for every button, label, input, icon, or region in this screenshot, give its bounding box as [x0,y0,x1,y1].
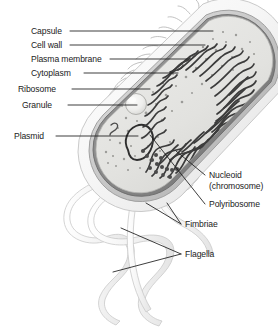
bacterial-cell-diagram: Capsule Cell wall Plasma membrane Cytopl… [0,0,278,329]
label-fimbriae: Fimbriae [185,219,218,230]
label-cytoplasm: Cytoplasm [31,68,71,79]
label-nucleoid: Nucleoid [209,170,242,181]
label-plasma-membrane: Plasma membrane [31,54,102,65]
label-capsule: Capsule [31,26,62,37]
label-polyribosome: Polyribosome [209,199,260,210]
label-nucleoid-chromosome: (chromosome) [209,181,263,192]
label-cell-wall: Cell wall [31,40,62,51]
label-flagella: Flagella [185,249,214,260]
label-granule: Granule [22,100,52,111]
label-plasmid: Plasmid [14,131,44,142]
label-ribosome: Ribosome [18,84,56,95]
